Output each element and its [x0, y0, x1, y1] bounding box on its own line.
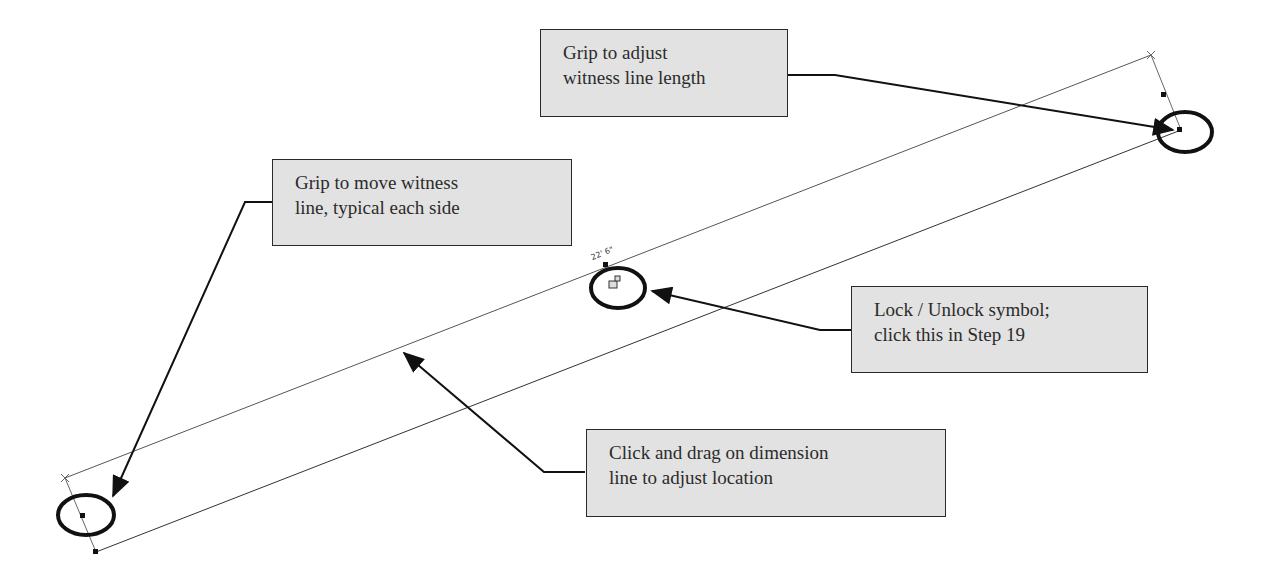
callout-text-line: line to adjust location — [609, 465, 925, 490]
tick-mark-left — [61, 474, 69, 482]
callout-text-line: Click and drag on dimension — [609, 440, 925, 465]
callout-lock-unlock-symbol: Lock / Unlock symbol; click this in Step… — [851, 286, 1148, 373]
callout-text-line: witness line length — [563, 65, 767, 90]
callout-text-line: Grip to adjust — [563, 40, 767, 65]
callout-text-line: click this in Step 19 — [874, 322, 1127, 347]
highlight-circle-lock — [591, 268, 645, 308]
lock-icon[interactable] — [609, 276, 620, 288]
callout-move-witness-line: Grip to move witness line, typical each … — [272, 159, 572, 246]
grip-dimension-text[interactable] — [603, 262, 608, 267]
callout-text-line: Lock / Unlock symbol; — [874, 297, 1127, 322]
callout-text-line: line, typical each side — [295, 195, 551, 220]
tick-mark-right — [1147, 51, 1155, 59]
grip-move-witness-right[interactable] — [1177, 127, 1182, 132]
callout-text-line: Grip to move witness — [295, 170, 551, 195]
grip-witness-length-left[interactable] — [93, 549, 98, 554]
leader-move-witness — [113, 202, 272, 496]
grip-move-witness-left[interactable] — [80, 513, 85, 518]
grip-witness-length-right[interactable] — [1161, 92, 1166, 97]
callout-witness-line-length: Grip to adjust witness line length — [540, 29, 788, 117]
callout-drag-dimension-line: Click and drag on dimension line to adju… — [586, 429, 946, 517]
leader-drag-dimension — [404, 353, 585, 472]
highlight-circle-right-grip — [1158, 112, 1212, 152]
